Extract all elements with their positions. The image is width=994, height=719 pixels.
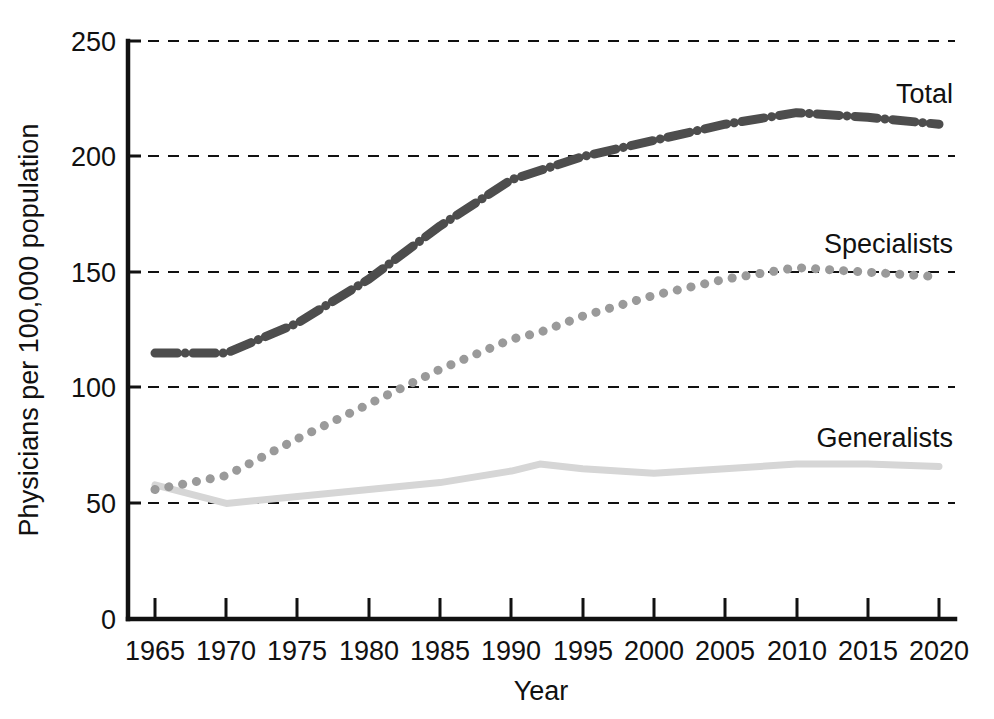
x-tick-label-1985: 1985 — [410, 636, 470, 666]
y-axis-title: Physicians per 100,000 population — [14, 124, 44, 537]
y-tick-label-50: 50 — [86, 489, 116, 519]
x-tick-label-2010: 2010 — [767, 636, 827, 666]
x-tick-label-2000: 2000 — [624, 636, 684, 666]
series-line-generalists — [155, 464, 939, 503]
x-tick-label-2005: 2005 — [695, 636, 755, 666]
x-tick-label-1995: 1995 — [553, 636, 613, 666]
y-tick-label-200: 200 — [71, 142, 116, 172]
y-tick-label-150: 150 — [71, 258, 116, 288]
line-chart-svg: 250 200 150 100 50 0 1965 1970 1975 1980… — [0, 0, 994, 719]
x-tick-label-1970: 1970 — [196, 636, 256, 666]
y-tick-label-100: 100 — [71, 373, 116, 403]
series-label-generalists: Generalists — [816, 423, 953, 453]
series-labels: Total Specialists Generalists — [816, 79, 953, 453]
x-tick-marks — [155, 598, 939, 619]
x-tick-label-2020: 2020 — [909, 636, 969, 666]
x-tick-label-2015: 2015 — [838, 636, 898, 666]
x-tick-label-1975: 1975 — [267, 636, 327, 666]
series-label-total: Total — [896, 79, 953, 109]
y-tick-labels: 250 200 150 100 50 0 — [71, 27, 116, 635]
x-axis-title: Year — [514, 676, 569, 706]
y-tick-label-250: 250 — [71, 27, 116, 57]
x-tick-labels: 1965 1970 1975 1980 1985 1990 1995 2000 … — [125, 636, 969, 666]
x-tick-label-1990: 1990 — [481, 636, 541, 666]
chart-figure: 250 200 150 100 50 0 1965 1970 1975 1980… — [0, 0, 994, 719]
x-tick-label-1965: 1965 — [125, 636, 185, 666]
x-tick-label-1980: 1980 — [339, 636, 399, 666]
y-tick-label-0: 0 — [101, 605, 116, 635]
series-label-specialists: Specialists — [824, 229, 953, 259]
series-line-specialists — [155, 268, 939, 490]
series-line-total — [155, 113, 939, 353]
